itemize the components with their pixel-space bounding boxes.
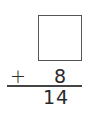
plus-sign: + [10,66,26,86]
known-addend: 8 [54,66,66,86]
sum-value: 14 [43,87,69,107]
answer-box[interactable] [38,15,82,61]
vertical-addition-problem: + 8 14 [0,0,90,117]
